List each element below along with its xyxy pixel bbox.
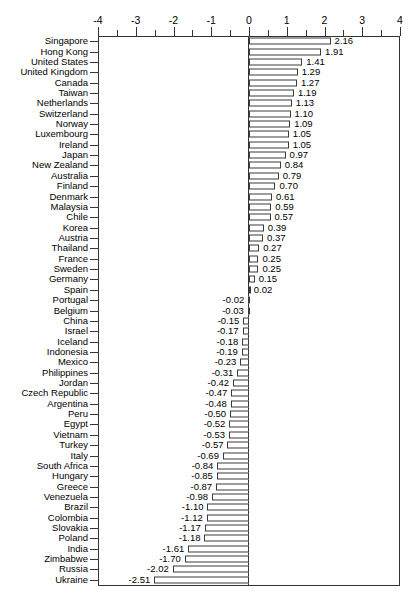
bar-value-label: 0.25 [262, 264, 281, 274]
category-label: Indonesia [47, 347, 88, 357]
bar-value-label: -0.52 [204, 420, 226, 430]
bar [154, 576, 249, 583]
bar-value-label: 0.97 [290, 150, 309, 160]
bar-value-label: 0.25 [262, 254, 281, 264]
category-label: Peru [68, 409, 88, 419]
y-axis-tick [90, 228, 98, 229]
bar-value-label: 0.37 [267, 233, 286, 243]
y-axis-tick [90, 549, 98, 550]
y-axis-tick [90, 414, 98, 415]
bar-value-label: -1.61 [163, 544, 185, 554]
category-label: Finland [57, 181, 88, 191]
bar-value-label: -2.02 [147, 565, 169, 575]
y-axis-tick [90, 538, 98, 539]
category-label: Canada [55, 78, 88, 88]
bar [249, 121, 290, 128]
category-label: India [67, 544, 88, 554]
x-axis-tick-label: 1 [284, 15, 290, 25]
y-axis-tick [90, 217, 98, 218]
y-axis-tick [90, 114, 98, 115]
y-axis-tick [90, 176, 98, 177]
y-axis-tick [90, 269, 98, 270]
category-label: Portugal [53, 295, 88, 305]
x-axis-tick-label: 2 [322, 15, 328, 25]
category-label: Austria [58, 233, 88, 243]
bar-value-label: -1.70 [159, 554, 181, 564]
y-axis-tick [90, 331, 98, 332]
bar [229, 421, 249, 428]
bar-value-label: 0.15 [259, 275, 278, 285]
bar [207, 514, 249, 521]
bar [205, 525, 249, 532]
y-axis-tick [90, 52, 98, 53]
bar [249, 234, 263, 241]
bar-value-label: 1.29 [302, 68, 321, 78]
category-label: Venezuela [44, 492, 88, 502]
y-axis-tick [90, 83, 98, 84]
category-label: Spain [64, 285, 88, 295]
plot-frame-left [98, 36, 99, 586]
y-axis-tick [90, 311, 98, 312]
y-axis-tick [90, 569, 98, 570]
y-axis-tick [90, 383, 98, 384]
y-axis-tick [90, 238, 98, 239]
category-label: France [58, 254, 88, 264]
category-label: Ireland [59, 140, 88, 150]
bar-value-label: -0.15 [218, 316, 240, 326]
y-axis-tick [90, 165, 98, 166]
y-axis-tick [90, 487, 98, 488]
y-axis-tick [90, 197, 98, 198]
x-axis-major-tick [211, 27, 212, 36]
bar-value-label: 1.13 [296, 99, 315, 109]
bar-value-label: -0.87 [191, 482, 213, 492]
bar-value-label: -0.19 [216, 347, 238, 357]
category-label: Turkey [59, 440, 88, 450]
category-label: South Africa [37, 461, 88, 471]
bar [249, 286, 251, 293]
bar [185, 556, 249, 563]
bar-value-label: 0.39 [268, 223, 287, 233]
x-axis-tick-label: 0 [246, 15, 252, 25]
bar-value-label: 1.05 [293, 140, 312, 150]
bar [230, 411, 249, 418]
category-label: Russia [59, 565, 88, 575]
category-label: Singapore [45, 36, 88, 46]
y-axis-tick [90, 456, 98, 457]
x-axis-major-tick [136, 27, 137, 36]
bar [229, 431, 249, 438]
bar [249, 38, 331, 45]
bar [249, 183, 275, 190]
bar [240, 359, 249, 366]
y-axis-tick [90, 559, 98, 560]
y-axis-tick [90, 134, 98, 135]
category-label: China [63, 316, 88, 326]
bar [249, 266, 258, 273]
bar-value-label: -1.18 [179, 534, 201, 544]
category-label: Slovakia [52, 523, 88, 533]
bar [188, 545, 249, 552]
y-axis-tick [90, 528, 98, 529]
y-axis-tick [90, 103, 98, 104]
bar [249, 141, 289, 148]
y-axis-tick [90, 507, 98, 508]
bar-value-label: -0.42 [207, 378, 229, 388]
bar [223, 452, 249, 459]
y-axis-tick [90, 497, 98, 498]
bar [227, 442, 249, 449]
bar-value-label: -0.53 [203, 430, 225, 440]
category-label: Denmark [49, 192, 88, 202]
bar-value-label: -0.84 [192, 461, 214, 471]
bar [249, 245, 259, 252]
category-label: Thailand [52, 244, 88, 254]
bar [248, 297, 250, 304]
category-label: Ukraine [55, 575, 88, 585]
bar [217, 462, 249, 469]
bar [242, 338, 249, 345]
y-axis-tick [90, 300, 98, 301]
x-axis-major-tick [400, 27, 401, 36]
category-label: Switzerland [39, 109, 88, 119]
category-label: Netherlands [37, 99, 88, 109]
bar-value-label: 0.79 [283, 171, 302, 181]
x-axis-tick-label-row: -4-3-2-101234 [0, 0, 418, 36]
bar [249, 152, 286, 159]
